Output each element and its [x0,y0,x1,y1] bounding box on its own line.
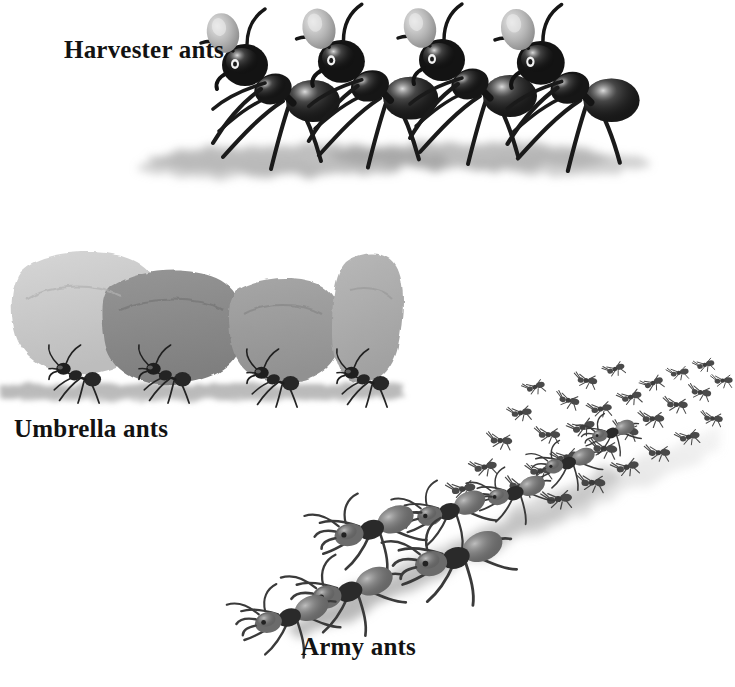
leaf-fragment [102,270,243,384]
harvester-ants-artwork [0,0,735,220]
army-ants-label: Army ants [301,633,416,661]
harvester-ants-label: Harvester ants [64,36,224,64]
army-ants-scene [250,360,735,640]
army-ants-artwork [250,360,735,640]
umbrella-ants-label: Umbrella ants [14,415,168,443]
harvester-ants-scene [0,0,735,220]
illustration-canvas: Harvester ants Umbrella ants Army ants [0,0,735,687]
